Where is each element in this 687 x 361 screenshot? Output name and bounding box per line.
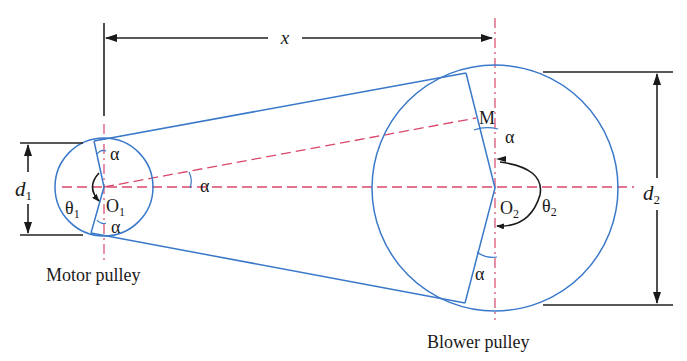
center-distance-dimension: x: [104, 23, 492, 116]
blower-center-label: O2: [500, 198, 519, 221]
blower-angle-bottom-label: α: [475, 264, 485, 284]
centerlines: [62, 18, 634, 320]
center-line-angle-label: α: [200, 176, 210, 196]
blower-angle-arc-top: [474, 128, 498, 130]
belt-lower-span: [91, 233, 465, 303]
blower-angle-top-label: α: [505, 127, 515, 147]
motor-angle-bottom-label: α: [111, 217, 121, 237]
motor-angle-arc-top: [97, 150, 106, 154]
blower-wrap-arrow-start: [496, 156, 506, 162]
blower-point-m-label: M: [479, 108, 495, 128]
motor-center-label: O1: [106, 196, 125, 219]
d2-label: d2: [643, 181, 660, 207]
motor-angle-top-label: α: [110, 144, 120, 164]
motor-angle-arc-bottom: [97, 220, 106, 224]
blower-angle-arc-bottom: [477, 252, 497, 257]
blower-pulley-caption: Blower pulley: [427, 332, 529, 352]
x-label: x: [280, 27, 290, 48]
center-angle-arc: [189, 172, 191, 188]
blower-wrap-angle-label: θ2: [542, 196, 557, 219]
d1-label: d1: [15, 177, 32, 203]
motor-wrap-angle-label: θ1: [65, 198, 80, 221]
belt-drive-diagram: x α α θ1 O1 α Motor pulley M α α O2 θ2 B…: [0, 0, 687, 361]
motor-diameter-dimension: d1: [15, 143, 83, 235]
motor-pulley-caption: Motor pulley: [46, 265, 141, 285]
belt-upper-span: [94, 73, 466, 141]
blower-diameter-dimension: d2: [543, 72, 673, 305]
